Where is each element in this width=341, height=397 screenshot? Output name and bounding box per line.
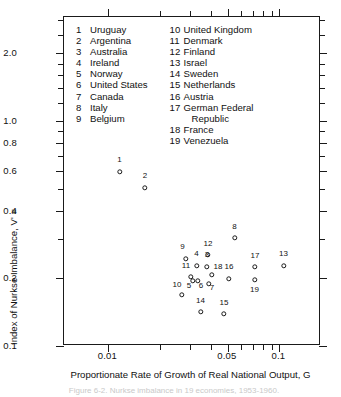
x-tick-major-top <box>228 9 229 17</box>
legend-item-number: 14 <box>170 68 184 79</box>
scatter-point[interactable] <box>232 235 237 240</box>
legend-item: 16Austria <box>170 91 254 102</box>
legend-item: 6United States <box>76 79 148 90</box>
x-tick-label: 0.1 <box>272 350 286 361</box>
scatter-point[interactable] <box>209 272 214 277</box>
y-tick-minor <box>58 88 64 89</box>
legend-item-continuation: Republic <box>170 113 254 124</box>
scatter-point[interactable] <box>221 311 226 316</box>
legend-item-number: 19 <box>170 135 184 146</box>
y-axis-formula: 1 G n Σ i = 1 ω i (g xi − E i G) 2 <box>20 8 66 178</box>
scatter-point[interactable] <box>226 276 231 281</box>
legend-item-name: United Kingdom <box>184 24 252 35</box>
legend-item: 11Denmark <box>170 35 254 46</box>
x-tick-minor <box>160 344 161 350</box>
x-tick-minor <box>190 344 191 350</box>
y-tick-minor <box>58 239 64 240</box>
y-tick-label: 0.4 <box>3 204 17 215</box>
scatter-point-label: 1 <box>117 156 121 164</box>
legend-item-name: Sweden <box>184 68 219 79</box>
scatter-point-label: 14 <box>196 297 205 305</box>
scatter-point-label: 19 <box>250 286 259 294</box>
legend-item-number: 15 <box>170 79 184 90</box>
y-tick-minor-right <box>319 35 325 36</box>
scatter-point-label: 10 <box>173 281 182 289</box>
legend-item: 10United Kingdom <box>170 24 254 35</box>
y-tick-major-right <box>319 211 327 212</box>
y-tick-label: 0.2 <box>3 272 17 283</box>
y-tick-minor-right <box>319 75 325 76</box>
scatter-point[interactable] <box>117 169 122 174</box>
legend-item-number: 8 <box>76 102 90 113</box>
legend-item-name: Ireland <box>90 57 119 68</box>
y-axis-title: Index of Nurkse Imbalance, V' ≡ <box>8 16 19 345</box>
scatter-point-label: 2 <box>143 172 147 180</box>
y-tick-major <box>56 121 64 122</box>
scatter-point[interactable] <box>194 263 199 268</box>
y-tick-major-right <box>319 53 327 54</box>
y-tick-minor-right <box>319 88 325 89</box>
x-tick-label: 0.01 <box>98 350 117 361</box>
legend-item-number: 12 <box>170 46 184 57</box>
legend-item-name: Norway <box>90 68 123 79</box>
legend-item: 17German Federal <box>170 102 254 113</box>
scatter-point[interactable] <box>252 277 257 282</box>
legend-item-number: 1 <box>76 24 90 35</box>
y-tick-major-right <box>319 171 327 172</box>
x-axis-title: Proportionate Rate of Growth of Real Nat… <box>62 369 319 380</box>
scatter-point-label: 16 <box>225 263 234 271</box>
y-tick-major-right <box>319 278 327 279</box>
legend-item: 12Finland <box>170 46 254 57</box>
x-tick-major-top <box>279 9 280 17</box>
legend-item: 4Ireland <box>76 57 148 68</box>
scatter-point-label: 6 <box>199 282 203 290</box>
legend-item-number: 4 <box>76 57 90 68</box>
scatter-point[interactable] <box>198 309 203 314</box>
legend-item-number: 13 <box>170 57 184 68</box>
scatter-point[interactable] <box>204 264 209 269</box>
legend-item-number: 7 <box>76 91 90 102</box>
legend-item-name: Argentina <box>90 35 131 46</box>
legend-item-name: Uruguay <box>90 24 126 35</box>
legend-item: 18France <box>170 124 254 135</box>
x-tick-major-top <box>108 9 109 17</box>
legend-item-number: 16 <box>170 91 184 102</box>
scatter-point-label: 7 <box>210 284 214 292</box>
x-tick-minor <box>241 344 242 350</box>
scatter-point[interactable] <box>252 264 257 269</box>
legend-item-number: 17 <box>170 102 184 113</box>
y-tick-label: 1.0 <box>3 115 17 126</box>
legend-item-number: 2 <box>76 35 90 46</box>
legend-item-name: Denmark <box>184 35 223 46</box>
y-tick-minor-right <box>319 103 325 104</box>
scatter-point[interactable] <box>142 185 147 190</box>
x-tick-minor-top <box>211 11 212 17</box>
legend-column-1: 1Uruguay2Argentina3Australia4Ireland5Nor… <box>76 24 148 146</box>
legend-item-name: Belgium <box>90 113 125 124</box>
y-tick-minor-right <box>319 156 325 157</box>
scatter-point-label: 15 <box>220 299 229 307</box>
y-tick-minor <box>58 103 64 104</box>
legend-item-name: United States <box>90 79 148 90</box>
x-tick-minor-top <box>272 11 273 17</box>
y-tick-label: 0.1 <box>3 340 17 351</box>
scatter-point[interactable] <box>281 263 286 268</box>
legend-item-number: 3 <box>76 46 90 57</box>
y-tick-minor <box>58 20 64 21</box>
x-tick-minor-top <box>253 11 254 17</box>
y-tick-minor <box>58 64 64 65</box>
y-tick-minor <box>58 156 64 157</box>
y-tick-minor-right <box>319 189 325 190</box>
scatter-point[interactable] <box>205 252 210 257</box>
scatter-point-label: 5 <box>187 282 191 290</box>
legend-item: 2Argentina <box>76 35 148 46</box>
legend-item: 5Norway <box>76 68 148 79</box>
y-tick-label: 0.6 <box>3 164 17 175</box>
x-tick-minor <box>211 344 212 350</box>
x-tick-minor-top <box>160 11 161 17</box>
y-tick-label: 2.0 <box>3 47 17 58</box>
legend-item: 13Israel <box>170 57 254 68</box>
scatter-point[interactable] <box>179 292 184 297</box>
y-tick-minor-right <box>319 131 325 132</box>
y-tick-major-right <box>319 143 327 144</box>
